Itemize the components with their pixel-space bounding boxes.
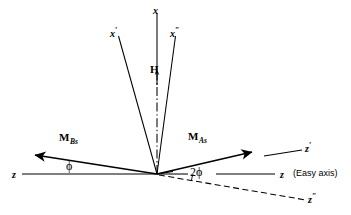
x-prime-axis-label: x′	[110, 27, 117, 39]
z-prime-axis-line-outer	[264, 150, 302, 156]
x-prime-axis-line	[119, 36, 158, 174]
z-double-prime-axis-label: z″	[308, 193, 316, 205]
x-double-prime-axis-label: x″	[170, 27, 179, 39]
field-h-label: H	[150, 64, 159, 75]
magnetization-b-vector-arrow	[35, 155, 157, 174]
z-axis-right-label: z	[280, 168, 284, 180]
x-axis-label: x	[153, 4, 158, 16]
magnetization-a-vector-arrow	[157, 152, 252, 174]
x-double-prime-axis-line	[157, 36, 176, 174]
magnetization-a-label: MAs	[188, 131, 207, 145]
easy-axis-note-label: (Easy axis)	[293, 169, 338, 178]
magnetization-b-label: MBs	[59, 132, 78, 146]
angle-two-phi-label: 2ϕ	[190, 166, 202, 178]
figure-canvas: x x′ x″ H MBs MAs z ϕ 2ϕ z (Easy axis) z…	[0, 0, 351, 215]
z-axis-left-label: z	[12, 168, 16, 180]
angle-phi-label: ϕ	[66, 160, 72, 172]
z-prime-axis-label: z′	[305, 142, 311, 154]
